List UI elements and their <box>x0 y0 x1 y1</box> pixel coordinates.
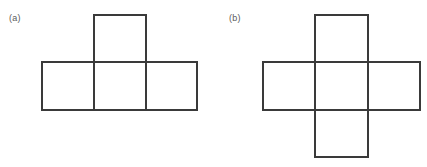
panel-b-label: (b) <box>229 14 241 23</box>
canvas-background <box>0 0 427 167</box>
figure-canvas <box>0 0 427 167</box>
panel-a-label: (a) <box>9 14 21 23</box>
